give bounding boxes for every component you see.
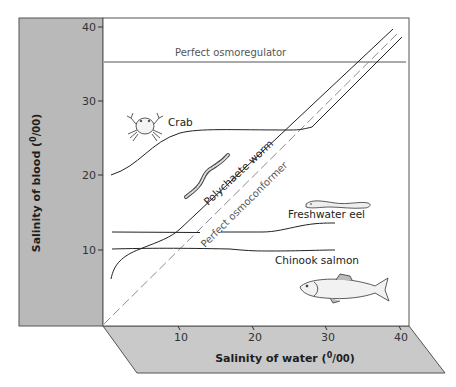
osmoregulator-label: Perfect osmoregulator: [175, 47, 287, 58]
x-tick-10: 10: [174, 331, 188, 344]
y-tick-40: 40: [82, 21, 96, 34]
y-axis-title: Salinity of blood (0/00): [29, 114, 43, 253]
x-tick-30: 30: [321, 331, 335, 344]
y-tick-20: 20: [82, 169, 96, 182]
freshwater-eel-label: Freshwater eel: [288, 208, 365, 220]
y-tick-30: 30: [82, 95, 96, 108]
plot-area: [103, 18, 409, 326]
osmoregulation-chart: 40 30 20 10 10 20 30 40 Salinity of bloo…: [0, 0, 456, 387]
x-tick-20: 20: [248, 331, 262, 344]
chinook-salmon-label: Chinook salmon: [275, 254, 359, 266]
crab-label: Crab: [168, 116, 193, 128]
x-tick-40: 40: [394, 331, 408, 344]
y-tick-10: 10: [82, 244, 96, 257]
x-axis-title: Salinity of water (0/00): [215, 351, 355, 365]
